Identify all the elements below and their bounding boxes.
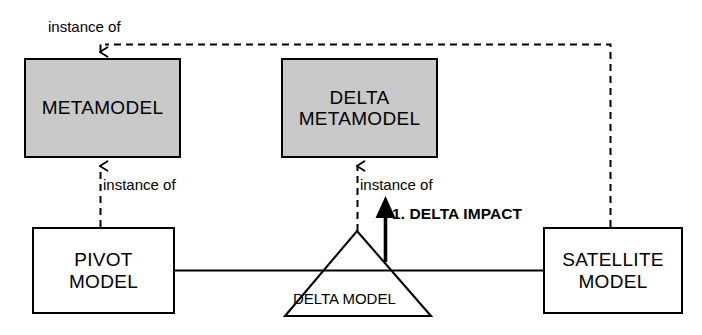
node-metamodel[interactable]: METAMODEL — [24, 58, 181, 158]
node-delta-model-label: DELTA MODEL — [293, 291, 396, 306]
node-satellite-model[interactable]: SATELLITE MODEL — [543, 227, 683, 314]
edge-label-instance-of-pivot: instance of — [103, 177, 176, 192]
node-pivot-model-label: PIVOT MODEL — [69, 249, 138, 292]
node-delta-metamodel-label: DELTA METAMODEL — [299, 87, 421, 130]
node-delta-metamodel[interactable]: DELTA METAMODEL — [281, 58, 438, 158]
node-metamodel-label: METAMODEL — [42, 97, 164, 118]
diagram-canvas: METAMODEL DELTA METAMODEL PIVOT MODEL SA… — [0, 0, 702, 335]
edge-label-instance-of-delta: instance of — [360, 177, 433, 192]
edge-label-instance-of-top: instance of — [48, 19, 121, 34]
edge-label-delta-impact: 1. DELTA IMPACT — [392, 206, 522, 222]
node-satellite-model-label: SATELLITE MODEL — [562, 249, 664, 292]
node-pivot-model[interactable]: PIVOT MODEL — [32, 227, 175, 314]
